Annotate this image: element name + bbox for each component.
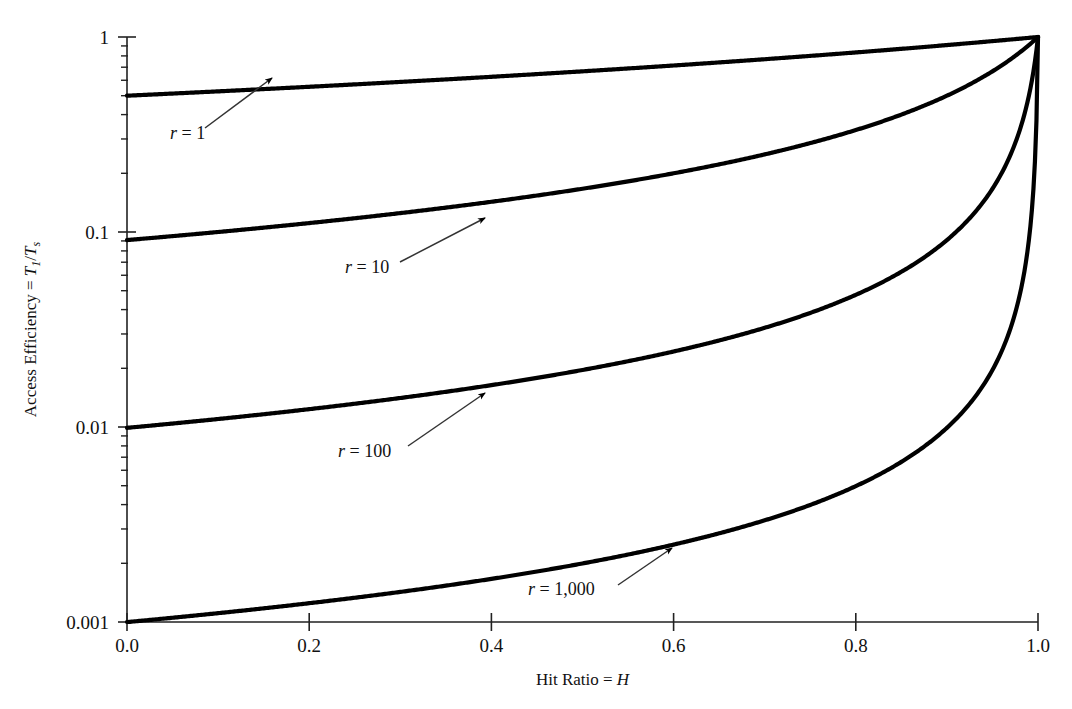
y-tick-label: 0.1 (85, 222, 109, 243)
access-efficiency-chart: 10.10.010.0010.00.20.40.60.81.0 r = 1r =… (0, 0, 1072, 709)
x-tick-label: 1.0 (1026, 635, 1050, 656)
x-tick-label: 0.8 (844, 635, 868, 656)
series-label-100: r = 100 (338, 441, 391, 461)
y-tick-label: 1 (100, 27, 110, 48)
series-label-1: r = 1 (170, 123, 205, 143)
x-tick-label: 0.2 (297, 635, 321, 656)
x-tick-label: 0.4 (480, 635, 504, 656)
chart-figure: 10.10.010.0010.00.20.40.60.81.0 r = 1r =… (0, 0, 1072, 709)
y-tick-label: 0.001 (66, 612, 109, 633)
x-axis-title: Hit Ratio = H (536, 670, 631, 689)
series-label-1000: r = 1,000 (528, 579, 595, 599)
y-tick-label: 0.01 (76, 417, 109, 438)
chart-background (0, 0, 1072, 709)
y-axis-title: Access Efficiency = T1/Ts (21, 242, 43, 418)
x-tick-label: 0.0 (115, 635, 139, 656)
series-label-10: r = 10 (345, 257, 389, 277)
x-tick-label: 0.6 (662, 635, 686, 656)
